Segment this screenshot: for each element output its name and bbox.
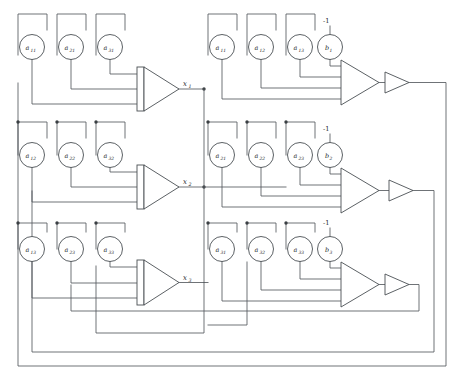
junction-dot: [94, 221, 97, 224]
pot-label: a: [255, 44, 259, 52]
pot-label-sub: 33: [299, 250, 305, 255]
pot-label-sub: 33: [109, 250, 115, 255]
pot-label: a: [216, 44, 220, 52]
output-label: x: [183, 274, 187, 282]
row-1-left-amp-inputs: [32, 60, 137, 105]
row-3-constant-source: -1: [323, 219, 330, 237]
pot-label: a: [26, 44, 30, 52]
constant-source-label: -1: [323, 17, 329, 25]
constant-source-label: -1: [323, 125, 329, 133]
pot-label-sub: 12: [31, 156, 37, 161]
junction-dot: [55, 120, 58, 123]
junction-dot: [16, 221, 19, 224]
row-2-left-summing-amplifier[interactable]: [137, 165, 204, 209]
row-1: a 11 a 21 a 31 x 1: [18, 14, 446, 366]
junction-dot: [94, 120, 97, 123]
junction-dot: [16, 120, 19, 123]
row-1-pot-group-left: a 11 a 21 a 31: [20, 35, 123, 60]
pot-label-sub: 11: [31, 48, 37, 53]
junction-dot: [245, 120, 248, 123]
pot-label-sub: 21: [69, 48, 76, 53]
row-1-left-summing-amplifier[interactable]: [137, 67, 204, 111]
output-label-sub: 1: [189, 84, 192, 89]
row-1-pot-group-right: a 11 a 12 a 13 b 1: [210, 35, 343, 60]
row-1-feedback-wire: [18, 83, 446, 367]
row-1-inverter[interactable]: [385, 72, 409, 93]
pot-label-sub: 23: [69, 250, 76, 255]
pot-label-sub: 22: [69, 156, 76, 161]
pot-label: a: [104, 44, 108, 52]
pot-label: a: [104, 152, 108, 160]
pot-label: a: [65, 152, 69, 160]
row-1-constant-source: -1: [323, 17, 330, 35]
pot-label-sub: 21: [220, 156, 227, 161]
pot-label: a: [216, 152, 220, 160]
pot-label-sub: 31: [221, 250, 227, 255]
row-3-left-amp-inputs: [32, 262, 137, 299]
row-2-left-amp-inputs: [32, 168, 137, 203]
pot-label: a: [26, 246, 30, 254]
row-2: a 12 a 22 a 32 x 2: [16, 120, 434, 352]
pot-label-sub: 32: [109, 156, 115, 161]
output-label: x: [183, 80, 187, 88]
row-1-right-amp-inputs: [222, 60, 341, 100]
row-2-right-summing-amplifier[interactable]: [341, 168, 389, 213]
pot-label: a: [104, 246, 108, 254]
pot-label-sub: 12: [260, 48, 266, 53]
row-2-inverter[interactable]: [389, 180, 413, 201]
output-label-sub: 3: [189, 278, 192, 283]
pot-label-sub: 13: [299, 48, 305, 53]
pot-label-sub: 11: [221, 48, 227, 53]
pot-label: a: [216, 246, 220, 254]
pot-label: a: [294, 152, 298, 160]
pot-label-sub: 13: [31, 250, 37, 255]
junction-dot: [206, 120, 209, 123]
circuit-schematic: a 11 a 21 a 31 x 1: [0, 0, 466, 381]
constant-label-sub: 1: [330, 48, 333, 53]
pot-label-sub: 23: [298, 156, 305, 161]
junction-dot: [55, 221, 58, 224]
junction-dot: [284, 120, 287, 123]
pot-label: a: [26, 152, 30, 160]
row-3-pot-group-right: a 31 a 32 a 33 b 3: [210, 237, 343, 262]
constant-label: b: [325, 246, 329, 254]
pot-label: a: [65, 44, 69, 52]
row-3: a 13 a 23 a 33 x 3: [16, 219, 419, 311]
pot-label-sub: 22: [259, 156, 266, 161]
row-3-inverter[interactable]: [385, 274, 409, 295]
pot-label: a: [255, 152, 259, 160]
row-3-pot-group-left: a 13 a 23 a 33: [20, 237, 123, 262]
row-1-right-summing-amplifier[interactable]: [341, 60, 385, 105]
pot-label-sub: 31: [109, 48, 115, 53]
constant-source-label: -1: [323, 219, 329, 227]
row-2-pot-group-left: a 12 a 22 a 32: [20, 143, 123, 168]
constant-label-sub: 3: [330, 250, 333, 255]
row-3-left-summing-amplifier[interactable]: [137, 260, 204, 305]
constant-label: b: [325, 152, 329, 160]
pot-label: a: [294, 44, 298, 52]
junction-dot: [284, 221, 287, 224]
output-label: x: [183, 178, 187, 186]
pot-label: a: [65, 246, 69, 254]
row-2-constant-source: -1: [323, 125, 330, 143]
constant-label: b: [325, 44, 329, 52]
constant-label-sub: 2: [329, 156, 333, 161]
pot-label: a: [294, 246, 298, 254]
junction-dot: [206, 221, 209, 224]
output-label-sub: 2: [188, 182, 192, 187]
row-2-feedback-wire: [32, 191, 434, 353]
junction-dot: [245, 221, 248, 224]
row-2-pot-group-right: a 21 a 22 a 23 b 2: [210, 143, 343, 168]
pot-label-sub: 32: [260, 250, 266, 255]
row-3-right-amp-inputs: [222, 262, 341, 302]
diagram-canvas: a 11 a 21 a 31 x 1: [0, 0, 466, 381]
pot-label: a: [255, 246, 259, 254]
row-3-right-summing-amplifier[interactable]: [341, 262, 385, 307]
cross-coupling-wires: [96, 89, 286, 333]
